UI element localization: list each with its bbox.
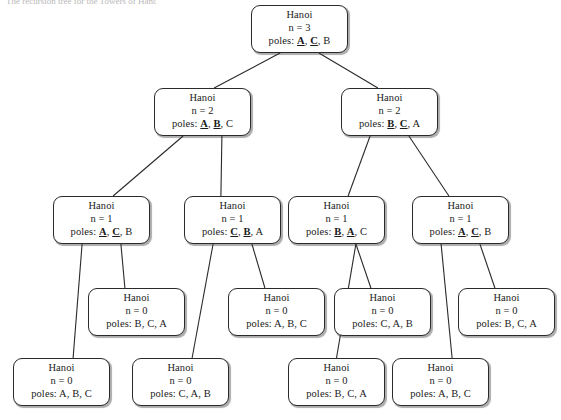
pole-label: C (464, 388, 471, 399)
node-title: Hanoi (252, 9, 347, 22)
caption-fragment: The recursion tree for the Towers of Han… (6, 0, 156, 5)
tree-edge (409, 136, 449, 196)
tree-node: Hanoin = 0poles: B, C, A (458, 288, 555, 336)
poles-prefix: poles: (31, 388, 59, 399)
node-n-value: n = 3 (252, 22, 347, 35)
node-title: Hanoi (342, 92, 437, 105)
pole-label: B (323, 35, 330, 46)
node-title: Hanoi (133, 362, 228, 375)
pole-label: C (300, 318, 307, 329)
tree-node: Hanoin = 0poles: B, C, A (88, 288, 185, 336)
pole-label: A (297, 35, 305, 46)
tree-edge (192, 244, 213, 358)
node-n-value: n = 0 (229, 305, 324, 318)
node-n-value: n = 0 (14, 375, 109, 388)
node-n-value: n = 0 (459, 305, 554, 318)
pole-label: C (85, 388, 92, 399)
pole-label: B (406, 318, 413, 329)
node-poles: poles: B, C, A (342, 118, 437, 131)
tree-edge (441, 244, 452, 358)
node-poles: poles: A, B, C (229, 318, 324, 331)
tree-node: Hanoin = 1poles: B, A, C (288, 196, 385, 244)
pole-label: C (310, 35, 318, 46)
pole-label: A (359, 388, 367, 399)
tree-node: Hanoin = 1poles: C, B, A (184, 196, 281, 244)
pole-label: A (255, 226, 263, 237)
node-poles: poles: B, C, A (289, 388, 384, 401)
node-title: Hanoi (155, 92, 250, 105)
pole-label: B (335, 388, 342, 399)
tree-edge (319, 53, 378, 88)
tree-edge (73, 244, 82, 358)
poles-prefix: poles: (202, 226, 230, 237)
pole-label: A (274, 318, 282, 329)
tree-node: Hanoin = 1poles: A, C, B (53, 196, 150, 244)
node-poles: poles: C, A, B (335, 318, 430, 331)
node-poles: poles: B, A, C (289, 226, 384, 239)
poles-prefix: poles: (246, 318, 274, 329)
tree-edge (121, 244, 125, 288)
tree-node: Hanoin = 1poles: A, C, B (412, 196, 509, 244)
node-title: Hanoi (14, 362, 109, 375)
node-n-value: n = 1 (54, 213, 149, 226)
pole-label: C (381, 318, 388, 329)
node-poles: poles: A, B, C (155, 118, 250, 131)
node-n-value: n = 2 (342, 105, 437, 118)
node-n-value: n = 0 (393, 375, 488, 388)
poles-prefix: poles: (410, 388, 438, 399)
node-poles: poles: C, B, A (185, 226, 280, 239)
tree-node: Hanoin = 0poles: A, B, C (228, 288, 325, 336)
pole-label: A (99, 226, 107, 237)
poles-prefix: poles: (172, 118, 200, 129)
pole-label: C (112, 226, 120, 237)
pole-label: A (438, 388, 446, 399)
poles-prefix: poles: (269, 35, 297, 46)
pole-label: B (125, 226, 132, 237)
node-n-value: n = 0 (335, 305, 430, 318)
node-n-value: n = 0 (289, 375, 384, 388)
pole-label: B (213, 118, 220, 129)
poles-prefix: poles: (476, 318, 504, 329)
node-title: Hanoi (335, 292, 430, 305)
pole-label: C (360, 226, 367, 237)
tree-node: Hanoin = 2poles: A, B, C (154, 88, 251, 136)
pole-label: A (59, 388, 67, 399)
node-title: Hanoi (289, 362, 384, 375)
tree-node: Hanoin = 0poles: A, B, C (392, 358, 489, 406)
pole-label: C (179, 388, 186, 399)
pole-label: C (226, 118, 233, 129)
node-title: Hanoi (89, 292, 184, 305)
tree-edge (348, 136, 370, 196)
tree-node: Hanoin = 2poles: B, C, A (341, 88, 438, 136)
node-title: Hanoi (229, 292, 324, 305)
tree-edge (356, 244, 371, 288)
node-poles: poles: B, C, A (459, 318, 554, 331)
pole-label: A (200, 118, 208, 129)
tree-node: Hanoin = 0poles: A, B, C (13, 358, 110, 406)
tree-node: Hanoin = 3poles: A, C, B (251, 5, 348, 53)
poles-prefix: poles: (306, 388, 334, 399)
node-poles: poles: A, B, C (14, 388, 109, 401)
pole-label: A (529, 318, 537, 329)
pole-label: A (159, 318, 167, 329)
node-title: Hanoi (413, 200, 508, 213)
pole-label: B (135, 318, 142, 329)
pole-label: A (458, 226, 466, 237)
pole-label: A (412, 118, 420, 129)
node-n-value: n = 2 (155, 105, 250, 118)
poles-prefix: poles: (71, 226, 99, 237)
tree-edge (221, 136, 222, 196)
poles-prefix: poles: (150, 388, 178, 399)
tree-node: Hanoin = 0poles: B, C, A (288, 358, 385, 406)
node-n-value: n = 1 (289, 213, 384, 226)
tree-edge (113, 136, 183, 196)
poles-prefix: poles: (352, 318, 380, 329)
tree-edge (252, 244, 265, 288)
pole-label: C (400, 118, 408, 129)
pole-label: B (505, 318, 512, 329)
pole-label: C (471, 226, 479, 237)
recursion-tree-diagram: The recursion tree for the Towers of Han… (0, 0, 561, 420)
node-title: Hanoi (185, 200, 280, 213)
node-poles: poles: A, C, B (54, 226, 149, 239)
node-n-value: n = 1 (185, 213, 280, 226)
